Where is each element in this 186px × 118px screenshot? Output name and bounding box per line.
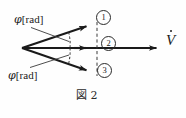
figure-container: φ[rad] φ[rad] 1 2 3 V 図 2 [0, 0, 186, 118]
vector-marker-1: 1 [96, 10, 111, 25]
phi-unit-upper: [rad] [22, 13, 44, 25]
phi-symbol-upper: φ [14, 13, 22, 26]
angle-arc-upper [69, 32, 71, 48]
vector-marker-2: 2 [101, 36, 116, 51]
vector-marker-3: 3 [97, 63, 112, 78]
figure-caption: 図 2 [76, 90, 98, 101]
angle-label-phi-upper: φ[rad] [14, 14, 44, 25]
phi-unit-lower: [rad] [16, 69, 38, 81]
vector-arrow-1 [22, 26, 87, 48]
axis-label-v-dot: V [166, 33, 175, 48]
v-symbol: V [166, 32, 175, 48]
phi-symbol-lower: φ [8, 69, 16, 82]
angle-arc-lower [69, 48, 71, 64]
angle-label-phi-lower: φ[rad] [8, 70, 38, 81]
v-dot-accent-icon [170, 30, 172, 32]
